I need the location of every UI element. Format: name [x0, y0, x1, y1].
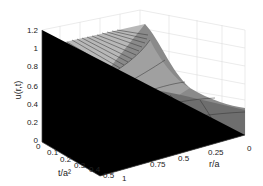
svg-text:1: 1 [34, 44, 39, 53]
svg-text:0.75: 0.75 [150, 160, 166, 169]
y-axis-label: r/a [209, 159, 220, 169]
svg-text:0.5: 0.5 [103, 171, 115, 180]
z-axis-label: u(r,t) [13, 81, 23, 100]
plot-canvas: 1.2 1 0.8 0.6 0.4 0.2 0 u(r,t) 0 0.1 0.2… [0, 0, 263, 186]
z-axis: 1.2 1 0.8 0.6 0.4 0.2 0 u(r,t) [13, 26, 39, 145]
svg-text:0.25: 0.25 [208, 148, 224, 157]
svg-text:0: 0 [36, 142, 41, 151]
x-axis-label: t/a² [58, 168, 71, 178]
svg-text:1: 1 [122, 174, 127, 183]
svg-text:0.2: 0.2 [27, 118, 39, 127]
svg-text:0.2: 0.2 [60, 155, 72, 164]
svg-text:1.2: 1.2 [27, 26, 39, 35]
svg-text:0.4: 0.4 [89, 165, 101, 174]
svg-text:0.5: 0.5 [178, 154, 190, 163]
svg-text:0: 0 [247, 144, 252, 153]
svg-text:0.3: 0.3 [74, 161, 86, 170]
svg-text:0.1: 0.1 [47, 148, 59, 157]
surface-plot: 1.2 1 0.8 0.6 0.4 0.2 0 u(r,t) 0 0.1 0.2… [0, 0, 263, 186]
svg-text:0.4: 0.4 [27, 100, 39, 109]
svg-text:0.8: 0.8 [27, 62, 39, 71]
svg-text:0.6: 0.6 [27, 82, 39, 91]
